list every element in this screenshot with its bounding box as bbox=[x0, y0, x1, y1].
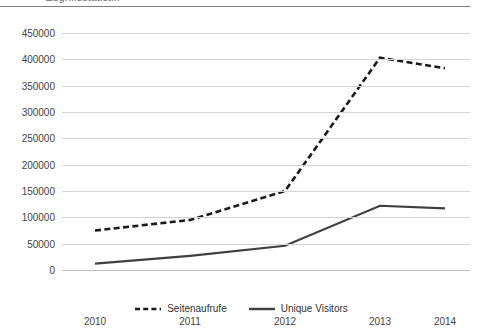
y-axis-tick-label: 150000 bbox=[22, 186, 55, 197]
series-line-seitenaufrufe bbox=[95, 58, 445, 231]
clipped-chart-title: Zugriffsstatistik bbox=[0, 0, 470, 5]
x-axis-tick-label: 2011 bbox=[179, 316, 201, 327]
series-line-unique-visitors bbox=[95, 206, 445, 264]
gridline bbox=[62, 112, 470, 113]
y-axis-tick-label: 300000 bbox=[22, 107, 55, 118]
gridline bbox=[62, 165, 470, 166]
gridline bbox=[62, 86, 470, 87]
gridline bbox=[62, 33, 470, 34]
dashed-line-swatch bbox=[135, 304, 161, 314]
y-axis-tick-label: 250000 bbox=[22, 133, 55, 144]
y-axis-tick-label: 400000 bbox=[22, 54, 55, 65]
solid-line-swatch bbox=[249, 304, 275, 314]
line-chart: Zugriffsstatistik 4500004000003500003000… bbox=[0, 0, 483, 329]
series-layer bbox=[62, 33, 470, 270]
legend-item-unique-visitors[interactable]: Unique Visitors bbox=[249, 303, 348, 314]
header-divider bbox=[0, 6, 470, 7]
x-axis-tick-label: 2013 bbox=[369, 316, 391, 327]
gridline bbox=[62, 191, 470, 192]
y-axis-tick-label: 200000 bbox=[22, 159, 55, 170]
legend-label-unique-visitors: Unique Visitors bbox=[281, 303, 348, 314]
gridline bbox=[62, 138, 470, 139]
y-axis-tick-label: 100000 bbox=[22, 212, 55, 223]
x-axis-tick-label: 2014 bbox=[434, 316, 456, 327]
y-axis-tick-label: 50000 bbox=[27, 238, 55, 249]
y-axis-tick-label: 0 bbox=[49, 265, 55, 276]
gridline bbox=[62, 244, 470, 245]
y-axis-tick-label: 450000 bbox=[22, 28, 55, 39]
chart-legend: Seitenaufrufe Unique Visitors bbox=[0, 303, 483, 314]
gridline bbox=[62, 59, 470, 60]
x-axis-tick-label: 2010 bbox=[84, 316, 106, 327]
y-axis-tick-label: 350000 bbox=[22, 80, 55, 91]
gridline bbox=[62, 270, 470, 271]
plot-area: 4500004000003500003000002500002000001500… bbox=[62, 33, 470, 270]
x-axis-tick-label: 2012 bbox=[274, 316, 296, 327]
legend-item-seitenaufrufe[interactable]: Seitenaufrufe bbox=[135, 303, 227, 314]
legend-label-seitenaufrufe: Seitenaufrufe bbox=[167, 303, 227, 314]
gridline bbox=[62, 217, 470, 218]
